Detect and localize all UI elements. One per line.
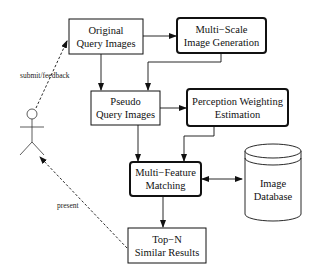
edges (36, 36, 242, 248)
node-label-line: Pseudo (110, 96, 140, 107)
node-label-line: Image (260, 178, 287, 189)
node-multi-scale-image-generation: Multi−Scale Image Generation (177, 18, 266, 53)
node-label-line: Multi−Feature (135, 167, 196, 178)
node-label-line: Original (89, 25, 124, 36)
node-label-line: Database (254, 191, 293, 202)
node-label-line: Top−N (152, 234, 182, 245)
node-label-line: Image Generation (184, 37, 260, 48)
edge-label-present: present (57, 201, 80, 210)
node-perception-weighting-estimation: Perception Weighting Estimation (187, 89, 288, 126)
node-multi-feature-matching: Multi−Feature Matching (130, 162, 201, 196)
node-label-line: Perception Weighting (192, 96, 284, 107)
node-original-query-images: Original Query Images (69, 19, 143, 54)
user-actor-icon (20, 109, 44, 155)
diagram-canvas: submit/feedback present Original Query I… (0, 0, 313, 277)
node-label-line: Matching (145, 180, 186, 191)
edge-multiscale-to-pseudo (148, 53, 221, 90)
node-label-line: Estimation (215, 109, 261, 120)
node-top-n-similar-results: Top−N Similar Results (128, 228, 206, 263)
node-label-line: Query Images (76, 38, 135, 49)
node-label-line: Query Images (96, 109, 155, 120)
edge-label-submit-feedback: submit/feedback (20, 71, 70, 80)
node-label-line: Similar Results (135, 247, 199, 258)
node-pseudo-query-images: Pseudo Query Images (91, 91, 160, 125)
node-image-database: Image Database (245, 144, 301, 221)
edge-perception-to-matching (184, 126, 214, 161)
edge-topn-to-user (40, 157, 127, 248)
node-label-line: Multi−Scale (196, 24, 248, 35)
